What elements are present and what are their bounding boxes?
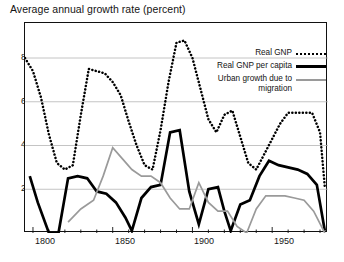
legend-label-urban-growth: Urban growth due to migration [200,74,296,94]
thin-gray-line-swatch [296,75,326,85]
x-axis-tick-1800: 1800 [25,236,65,246]
chart-title: Average annual growth rate (percent) [10,3,186,15]
legend-label-real-gnp: Real GNP [255,48,296,58]
x-axis-tick-1850: 1850 [105,236,145,246]
thick-solid-line-swatch [296,62,326,72]
legend-item-urban-growth: Urban growth due to migration [186,74,326,94]
x-axis-ticks [33,227,320,233]
chart-figure: Average annual growth rate (percent) 8 6… [0,0,344,262]
chart-legend: Real GNP Real GNP per capita Urban growt… [186,48,326,96]
x-axis-tick-1950: 1950 [264,236,304,246]
dotted-line-swatch [296,49,326,59]
legend-item-real-gnp: Real GNP [186,48,326,59]
legend-label-real-gnp-per-capita: Real GNP per capita [217,61,296,71]
legend-item-real-gnp-per-capita: Real GNP per capita [186,61,326,72]
x-axis-tick-1900: 1900 [184,236,224,246]
